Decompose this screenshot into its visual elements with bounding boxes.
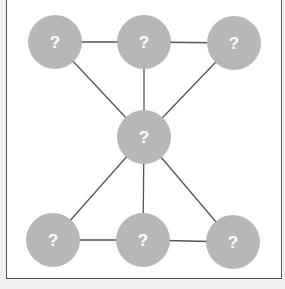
node-bottom-middle: ? (116, 213, 170, 267)
node-bottom-right: ? (206, 215, 260, 269)
question-mark-label: ? (138, 231, 148, 250)
question-mark-label: ? (139, 33, 149, 52)
node-top-middle: ? (117, 15, 171, 69)
node-top-left: ? (28, 15, 82, 69)
question-mark-label: ? (48, 231, 58, 250)
question-mark-label: ? (228, 233, 238, 252)
node-center: ? (117, 110, 171, 164)
graph-diagram: ??????? (0, 0, 285, 289)
question-mark-label: ? (229, 34, 239, 53)
question-mark-label: ? (139, 128, 149, 147)
node-bottom-left: ? (26, 213, 80, 267)
nodes: ??????? (26, 15, 261, 269)
question-mark-label: ? (50, 33, 60, 52)
node-top-right: ? (207, 16, 261, 70)
